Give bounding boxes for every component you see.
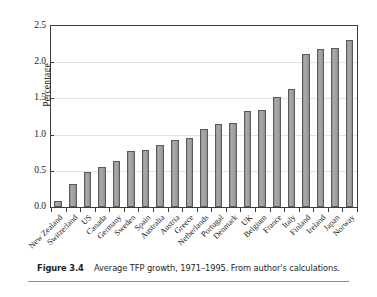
bar bbox=[200, 129, 208, 207]
y-tick-label: 0.5 bbox=[18, 166, 46, 176]
bar bbox=[54, 201, 62, 207]
bar bbox=[258, 110, 266, 207]
x-tick-mark bbox=[313, 208, 314, 212]
x-tick-mark bbox=[109, 208, 110, 212]
bar bbox=[244, 111, 252, 207]
caption-rule bbox=[28, 281, 349, 282]
x-tick-mark bbox=[197, 208, 198, 212]
bar bbox=[317, 49, 325, 207]
caption-text: Average TFP growth, 1971–1995. From auth… bbox=[94, 263, 340, 273]
x-tick-mark bbox=[168, 208, 169, 212]
bar bbox=[346, 40, 354, 207]
y-tick-label: 0.0 bbox=[18, 202, 46, 212]
bar bbox=[98, 167, 106, 207]
x-tick-mark bbox=[182, 208, 183, 212]
bar-chart: Percentage 0.00.51.01.52.02.5 New Zealan… bbox=[0, 0, 377, 258]
x-tick-mark bbox=[342, 208, 343, 212]
y-tick-label: 1.0 bbox=[18, 130, 46, 140]
bar bbox=[229, 123, 237, 207]
bar bbox=[69, 184, 77, 207]
x-tick-mark bbox=[357, 208, 358, 212]
x-tick-mark bbox=[226, 208, 227, 212]
x-tick-mark bbox=[240, 208, 241, 212]
x-tick-mark bbox=[66, 208, 67, 212]
x-tick-mark bbox=[299, 208, 300, 212]
bar bbox=[84, 172, 92, 207]
bar bbox=[186, 138, 194, 208]
x-tick-mark bbox=[51, 208, 52, 212]
bars-layer bbox=[51, 26, 357, 207]
y-tick-label: 2.0 bbox=[18, 57, 46, 67]
bar bbox=[171, 140, 179, 207]
x-tick-mark bbox=[138, 208, 139, 212]
x-tick-mark bbox=[255, 208, 256, 212]
bar bbox=[331, 48, 339, 207]
x-tick-mark bbox=[284, 208, 285, 212]
x-tick-mark bbox=[124, 208, 125, 212]
x-tick-mark bbox=[95, 208, 96, 212]
figure-caption: Figure 3.4 Average TFP growth, 1971–1995… bbox=[0, 263, 377, 273]
bar bbox=[127, 151, 135, 207]
x-tick-mark bbox=[211, 208, 212, 212]
x-tick-mark bbox=[80, 208, 81, 212]
figure-container: Percentage 0.00.51.01.52.02.5 New Zealan… bbox=[0, 0, 377, 297]
bar bbox=[156, 145, 164, 207]
x-tick-mark bbox=[270, 208, 271, 212]
bar bbox=[215, 124, 223, 207]
x-tick-mark bbox=[153, 208, 154, 212]
x-tick-mark bbox=[328, 208, 329, 212]
bar bbox=[113, 161, 121, 207]
bar bbox=[142, 150, 150, 207]
bar bbox=[288, 89, 296, 207]
bar bbox=[273, 97, 281, 207]
bar bbox=[302, 54, 310, 207]
y-tick-label: 1.5 bbox=[18, 93, 46, 103]
y-tick-label: 2.5 bbox=[18, 21, 46, 31]
caption-label: Figure 3.4 bbox=[37, 263, 84, 273]
